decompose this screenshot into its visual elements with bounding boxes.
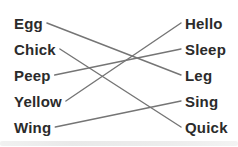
left-word-peep[interactable]: Peep (14, 62, 62, 88)
connection-line-wing-sing (55, 101, 181, 127)
connection-line-egg-leg (47, 23, 181, 75)
connection-line-yellow-hello (66, 23, 181, 101)
right-word-sleep-label: Sleep (185, 41, 226, 58)
left-word-peep-label: Peep (14, 67, 51, 84)
right-word-sing-label: Sing (185, 93, 218, 110)
right-word-leg[interactable]: Leg (185, 62, 228, 88)
left-word-yellow-label: Yellow (14, 93, 62, 110)
right-word-quick[interactable]: Quick (185, 114, 228, 140)
left-word-wing[interactable]: Wing (14, 114, 62, 140)
connection-line-peep-sleep (55, 49, 181, 75)
scan-shadow (0, 141, 238, 146)
left-word-wing-label: Wing (14, 119, 51, 136)
connection-line-chick-quick (60, 49, 181, 127)
left-word-chick[interactable]: Chick (14, 36, 62, 62)
matching-worksheet: Egg Chick Peep Yellow Wing Hello Sleep L… (0, 0, 238, 147)
left-word-chick-label: Chick (14, 41, 56, 58)
left-word-yellow[interactable]: Yellow (14, 88, 62, 114)
right-column: Hello Sleep Leg Sing Quick (185, 10, 228, 140)
left-word-egg[interactable]: Egg (14, 10, 62, 36)
right-word-sing[interactable]: Sing (185, 88, 228, 114)
left-word-egg-label: Egg (14, 15, 43, 32)
right-word-hello[interactable]: Hello (185, 10, 228, 36)
right-word-hello-label: Hello (185, 15, 223, 32)
right-word-sleep[interactable]: Sleep (185, 36, 228, 62)
right-word-quick-label: Quick (185, 119, 228, 136)
left-column: Egg Chick Peep Yellow Wing (14, 10, 62, 140)
right-word-leg-label: Leg (185, 67, 212, 84)
